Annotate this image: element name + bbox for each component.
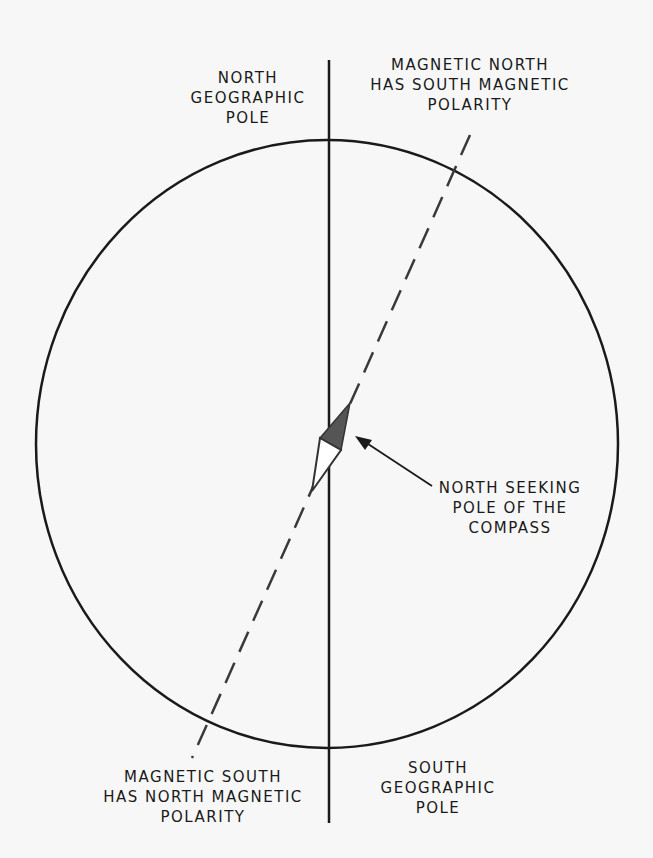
north-geographic-pole-label: NORTH GEOGRAPHIC POLE — [178, 68, 318, 128]
magnetic-north-label: MAGNETIC NORTH HAS SOUTH MAGNETIC POLARI… — [355, 55, 585, 115]
magnetic-south-label: MAGNETIC SOUTH HAS NORTH MAGNETIC POLARI… — [88, 767, 318, 827]
north-seeking-pole-label: NORTH SEEKING POLE OF THE COMPASS — [425, 478, 595, 538]
south-geographic-pole-label: SOUTH GEOGRAPHIC POLE — [368, 758, 508, 818]
earth-magnetic-field-diagram — [0, 0, 653, 858]
pointer-arrow-icon — [355, 436, 432, 486]
compass-needle-icon — [312, 403, 350, 491]
